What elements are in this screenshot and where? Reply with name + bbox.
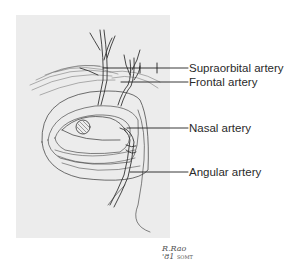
label-angular-artery: Angular artery <box>189 166 261 178</box>
signature-year: '81 <box>162 252 174 261</box>
signature-note: SOMT <box>177 254 193 260</box>
anatomical-figure: Supraorbital artery Frontal artery Nasal… <box>0 0 297 275</box>
eyebrow-strokes <box>30 65 160 95</box>
eye-artery-illustration <box>0 0 297 275</box>
frontal-artery <box>118 50 140 106</box>
iris-hatch <box>77 121 89 134</box>
artist-signature: R.Rao '81 SOMT <box>162 245 193 261</box>
label-supraorbital-artery: Supraorbital artery <box>189 62 284 74</box>
label-frontal-artery: Frontal artery <box>189 76 257 88</box>
label-nasal-artery: Nasal artery <box>189 122 251 134</box>
